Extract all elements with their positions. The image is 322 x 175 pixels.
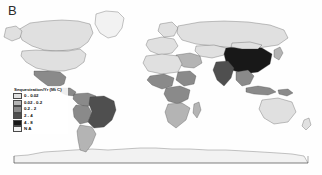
legend-title: Sequestration/Yr (Mt C) (13, 87, 67, 93)
region-indonesia (246, 86, 276, 95)
legend-swatch (13, 126, 22, 132)
figure-panel-b: B (0, 0, 322, 175)
region-india (213, 61, 234, 86)
legend-label: 4 - 8 (22, 120, 33, 126)
legend-item: 4 - 8 (13, 119, 67, 126)
legend-swatch (13, 93, 22, 99)
legend-label: 0.02 - 0.2 (22, 100, 42, 106)
region-western-europe (146, 37, 178, 55)
region-japan (274, 47, 283, 60)
region-sudan (176, 71, 196, 86)
legend-item: 0 - 0.02 (13, 93, 67, 100)
region-argentina-chile (77, 125, 96, 152)
legend-label: 0.2 - 2 (22, 106, 36, 112)
map-legend: Sequestration/Yr (Mt C) 0 - 0.02 0.02 - … (12, 86, 68, 134)
region-canada (18, 20, 93, 51)
region-alaska (4, 26, 22, 41)
region-scandinavia (158, 22, 178, 37)
region-greenland (95, 11, 124, 38)
region-southern-africa (165, 103, 190, 128)
legend-label: N A (22, 126, 31, 132)
region-madagascar (193, 102, 201, 118)
legend-swatch (13, 100, 22, 106)
legend-label: 2 - 4 (22, 113, 33, 119)
region-new-zealand (302, 118, 311, 130)
legend-item: 2 - 4 (13, 113, 67, 120)
region-central-africa (164, 86, 190, 104)
legend-swatch (13, 106, 22, 112)
legend-item: 0.2 - 2 (13, 106, 67, 113)
region-australia (259, 98, 296, 124)
legend-swatch (13, 113, 22, 119)
region-north-africa (143, 54, 182, 74)
legend-item: N A (13, 126, 67, 133)
region-united-states (21, 49, 86, 71)
legend-swatch (13, 120, 22, 126)
region-papua-new-guinea (278, 89, 293, 96)
legend-label: 0 - 0.02 (22, 93, 39, 99)
region-brazil (88, 96, 116, 128)
region-west-africa (147, 74, 174, 89)
legend-item: 0.02 - 0.2 (13, 100, 67, 107)
region-antarctica (14, 148, 308, 163)
